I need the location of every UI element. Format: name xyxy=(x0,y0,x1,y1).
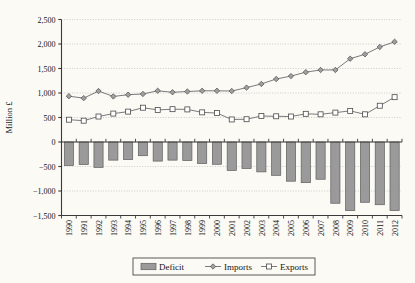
deficit-bar xyxy=(138,142,147,156)
x-axis-tick-label: 2010 xyxy=(361,220,370,236)
x-axis-tick-label: 1992 xyxy=(95,220,104,236)
exports-marker xyxy=(81,118,86,123)
exports-marker xyxy=(244,117,249,122)
imports-marker xyxy=(66,93,71,98)
y-axis-tick-label: 0 xyxy=(52,138,56,147)
exports-marker xyxy=(303,111,308,116)
x-axis-tick-label: 1995 xyxy=(139,220,148,236)
x-axis-tick-label: 1994 xyxy=(124,220,133,236)
imports-marker xyxy=(273,76,278,81)
legend-label: Deficit xyxy=(159,262,184,272)
deficit-bar xyxy=(109,142,118,160)
y-axis-tick-label: −1,500 xyxy=(33,212,56,221)
deficit-bar xyxy=(79,142,88,165)
exports-marker xyxy=(111,111,116,116)
exports-marker xyxy=(155,107,160,112)
x-axis-tick-label: 2000 xyxy=(213,220,222,236)
x-axis-tick-label: 2007 xyxy=(317,220,326,236)
deficit-bar xyxy=(183,142,192,161)
exports-marker xyxy=(267,264,272,269)
imports-marker xyxy=(111,94,116,99)
exports-marker xyxy=(377,103,382,108)
exports-marker xyxy=(126,109,131,114)
exports-marker xyxy=(170,107,175,112)
x-axis-tick-label: 1990 xyxy=(65,220,74,236)
exports-marker xyxy=(214,111,219,116)
deficit-bar xyxy=(331,142,340,203)
exports-marker xyxy=(392,95,397,100)
exports-marker xyxy=(288,114,293,119)
deficit-bar xyxy=(198,142,207,164)
imports-marker xyxy=(318,67,323,72)
exports-marker xyxy=(185,107,190,112)
x-axis-tick-label: 2001 xyxy=(228,220,237,236)
deficit-bar xyxy=(124,142,133,160)
chart-legend: DeficitImportsExports xyxy=(133,258,315,275)
deficit-bar xyxy=(286,142,295,181)
imports-marker xyxy=(259,81,264,86)
x-axis-tick-label: 2002 xyxy=(243,220,252,236)
exports-marker xyxy=(318,112,323,117)
deficit-bars xyxy=(64,142,399,211)
imports-marker xyxy=(96,88,101,93)
chart-container: 2,5002,0001,5001,0005000−500−1,000−1,500… xyxy=(0,0,415,283)
exports-marker xyxy=(96,114,101,119)
x-axis-tick-label: 2008 xyxy=(332,220,341,236)
y-axis: 2,5002,0001,5001,0005000−500−1,000−1,500 xyxy=(33,16,62,221)
deficit-bar xyxy=(212,142,221,164)
deficit-bar xyxy=(257,142,266,172)
x-axis-tick-label: 1993 xyxy=(110,220,119,236)
y-axis-tick-label: −500 xyxy=(39,163,56,172)
deficit-bar xyxy=(316,142,325,179)
imports-marker xyxy=(362,52,367,57)
x-axis-tick-label: 2003 xyxy=(258,220,267,236)
imports-marker xyxy=(288,73,293,78)
exports-marker xyxy=(259,114,264,119)
imports-marker xyxy=(392,39,397,44)
x-axis-labels: 1990199119921993199419951996199719981999… xyxy=(65,220,400,236)
x-axis-tick-label: 2005 xyxy=(287,220,296,236)
imports-marker xyxy=(303,69,308,74)
imports-marker xyxy=(140,91,145,96)
x-axis-tick-label: 1997 xyxy=(169,220,178,236)
y-axis-tick-label: 1,000 xyxy=(38,89,56,98)
x-axis-tick-label: 2012 xyxy=(391,220,400,236)
legend-swatch-deficit xyxy=(141,263,156,269)
legend-label: Exports xyxy=(280,262,308,272)
imports-series xyxy=(66,39,397,101)
deficit-imports-exports-chart: 2,5002,0001,5001,0005000−500−1,000−1,500… xyxy=(0,0,415,283)
deficit-bar xyxy=(64,142,73,166)
x-axis-tick-label: 1999 xyxy=(198,220,207,236)
deficit-bar xyxy=(168,142,177,160)
x-axis-tick-label: 1998 xyxy=(184,220,193,236)
exports-marker xyxy=(229,117,234,122)
deficit-bar xyxy=(360,142,369,202)
y-axis-tick-label: −1,000 xyxy=(33,187,56,196)
deficit-bar xyxy=(346,142,355,211)
y-axis-tick-label: 500 xyxy=(44,114,56,123)
exports-marker xyxy=(200,110,205,115)
x-axis-tick-label: 2004 xyxy=(272,220,281,236)
deficit-bar xyxy=(301,142,310,183)
deficit-bar xyxy=(242,142,251,168)
x-axis-bottom xyxy=(62,216,403,219)
x-axis xyxy=(62,139,403,142)
imports-marker xyxy=(244,85,249,90)
deficit-bar xyxy=(153,142,162,161)
x-axis-tick-label: 1996 xyxy=(154,220,163,236)
deficit-bar xyxy=(272,142,281,175)
x-axis-tick-label: 2006 xyxy=(302,220,311,236)
exports-marker xyxy=(362,112,367,117)
y-axis-tick-label: 2,000 xyxy=(38,40,56,49)
y-axis-tick-label: 1,500 xyxy=(38,65,56,74)
x-axis-tick-label: 1991 xyxy=(80,220,89,236)
imports-marker xyxy=(170,90,175,95)
imports-marker xyxy=(81,95,86,100)
y-axis-title: Million £ xyxy=(4,102,14,134)
exports-marker xyxy=(348,108,353,113)
deficit-bar xyxy=(227,142,236,170)
imports-marker xyxy=(377,44,382,49)
deficit-bar xyxy=(94,142,103,167)
exports-marker xyxy=(274,114,279,119)
legend-label: Imports xyxy=(224,262,252,272)
